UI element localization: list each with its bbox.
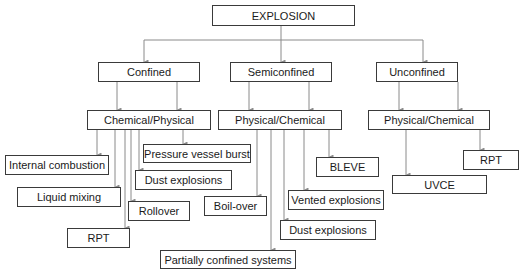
leaf-pressure-vessel-burst: Pressure vessel burst (143, 144, 251, 163)
leaf-dust-explosions-semiconfined: Dust explosions (280, 220, 376, 240)
leaf-liquid-mixing: Liquid mixing (17, 187, 121, 207)
node-semiconfined: Semiconfined (230, 62, 332, 82)
node-confined-chemical-physical: Chemical/Physical (87, 110, 211, 130)
explosion-classification-diagram: EXPLOSION Confined Semiconfined Unconfin… (0, 0, 525, 275)
leaf-internal-combustion: Internal combustion (5, 155, 109, 175)
leaf-bleve: BLEVE (316, 157, 379, 177)
leaf-rpt-confined: RPT (67, 228, 130, 248)
leaf-rollover: Rollover (128, 201, 190, 221)
leaf-partially-confined-systems: Partially confined systems (160, 250, 296, 269)
leaf-uvce: UVCE (392, 175, 487, 194)
leaf-rpt-unconfined: RPT (463, 150, 519, 170)
leaf-boil-over: Boil-over (204, 196, 267, 216)
leaf-vented-explosions: Vented explosions (288, 190, 384, 210)
node-unconfined: Unconfined (376, 62, 458, 82)
leaf-dust-explosions-confined: Dust explosions (135, 170, 232, 190)
node-semiconfined-physical-chemical: Physical/Chemical (218, 110, 342, 130)
node-confined: Confined (98, 62, 200, 82)
node-unconfined-physical-chemical: Physical/Chemical (368, 110, 490, 130)
node-explosion: EXPLOSION (212, 5, 355, 26)
